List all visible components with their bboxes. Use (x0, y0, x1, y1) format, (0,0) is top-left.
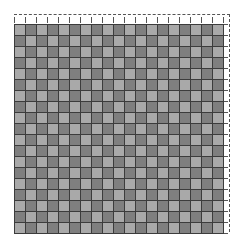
grid-cell (136, 91, 147, 102)
grid-cell (81, 168, 92, 179)
grid-cell (158, 190, 169, 201)
grid-cell (213, 190, 224, 201)
grid-cell (169, 157, 180, 168)
grid-cell (213, 58, 224, 69)
grid-cell (180, 102, 191, 113)
grid-cell (81, 157, 92, 168)
grid-cell (114, 91, 125, 102)
grid-cell (15, 168, 26, 179)
grid-cell (15, 69, 26, 80)
grid-cell (125, 223, 136, 234)
grid-cell (26, 58, 37, 69)
grid-cell (136, 80, 147, 91)
grid-cell (136, 102, 147, 113)
tick-mark-top (190, 17, 191, 23)
grid-cell (169, 190, 180, 201)
grid-cell (81, 223, 92, 234)
grid-cell (103, 47, 114, 58)
grid-cell (26, 212, 37, 223)
grid-cell (147, 223, 158, 234)
grid-cell (125, 135, 136, 146)
grid-cell (213, 157, 224, 168)
grid-cell (37, 124, 48, 135)
grid-cell (169, 212, 180, 223)
grid-cell (125, 201, 136, 212)
grid-cell (59, 25, 70, 36)
grid-cell (114, 25, 125, 36)
grid-cell (26, 36, 37, 47)
grid-cell (125, 102, 136, 113)
grid-cell (92, 47, 103, 58)
grid-cell (191, 69, 202, 80)
grid-cell (169, 179, 180, 190)
tick-mark-top (146, 17, 147, 23)
grid-cell (114, 157, 125, 168)
grid-cell (125, 146, 136, 157)
grid-cell (213, 223, 224, 234)
grid-cell (92, 201, 103, 212)
grid-cell (92, 135, 103, 146)
grid-cell (213, 124, 224, 135)
grid-cell (103, 223, 114, 234)
grid-cell (202, 168, 213, 179)
grid-cell (103, 80, 114, 91)
grid-cell (59, 80, 70, 91)
grid-cell (213, 80, 224, 91)
grid-cell (213, 91, 224, 102)
grid-cell (70, 179, 81, 190)
grid-cell (147, 179, 158, 190)
grid-cell (191, 135, 202, 146)
grid-cell (169, 47, 180, 58)
grid-cell (169, 113, 180, 124)
grid-cell (114, 69, 125, 80)
tick-mark-top (113, 17, 114, 23)
tick-mark-top (25, 17, 26, 23)
grid-cell (158, 113, 169, 124)
grid-cell (92, 157, 103, 168)
grid-cell (136, 113, 147, 124)
grid-cell (147, 146, 158, 157)
grid-cell (92, 25, 103, 36)
grid-cell (147, 25, 158, 36)
grid-cell (59, 223, 70, 234)
grid-cell (169, 146, 180, 157)
grid-cell (81, 190, 92, 201)
grid-cell (191, 157, 202, 168)
grid-cell (37, 157, 48, 168)
grid-cell (59, 146, 70, 157)
grid-cell (169, 25, 180, 36)
grid-cell (169, 36, 180, 47)
grid-cell (191, 223, 202, 234)
grid-cell (81, 113, 92, 124)
grid-cell (103, 168, 114, 179)
grid-cell (180, 190, 191, 201)
grid-cell (191, 212, 202, 223)
grid-cell (180, 179, 191, 190)
grid-cell (202, 25, 213, 36)
grid-cell (59, 201, 70, 212)
grid-cell (213, 36, 224, 47)
grid-cell (15, 223, 26, 234)
grid-cell (92, 168, 103, 179)
grid-cell (81, 179, 92, 190)
grid-cell (158, 223, 169, 234)
grid-cell (136, 25, 147, 36)
grid-cell (147, 102, 158, 113)
grid-cell (37, 58, 48, 69)
grid-cell (37, 91, 48, 102)
grid-cell (180, 201, 191, 212)
grid-cell (147, 47, 158, 58)
grid-cell (191, 80, 202, 91)
grid-cell (125, 179, 136, 190)
grid-cell (48, 102, 59, 113)
grid-cell (147, 168, 158, 179)
grid-cell (81, 36, 92, 47)
grid-cell (81, 135, 92, 146)
grid-cell (125, 58, 136, 69)
grid-cell (59, 102, 70, 113)
grid-cell (70, 190, 81, 201)
grid-cell (136, 124, 147, 135)
grid-cell (158, 91, 169, 102)
grid-cell (81, 146, 92, 157)
grid-cell (114, 113, 125, 124)
